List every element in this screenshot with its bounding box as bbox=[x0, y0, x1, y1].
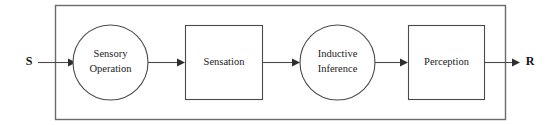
flow-diagram: Sensory Operation Sensation Inductive In… bbox=[0, 0, 557, 125]
connector-inductive-inference-to-perception bbox=[375, 59, 408, 67]
diagram-canvas: Sensory Operation Sensation Inductive In… bbox=[0, 0, 557, 125]
node-sensory-operation-line1: Sensory bbox=[94, 48, 129, 59]
stimulus-terminal-label: S bbox=[26, 54, 33, 68]
node-sensory-operation-line2: Operation bbox=[90, 63, 133, 74]
connector-stimulus-to-sensory-operation bbox=[38, 59, 76, 67]
node-inductive-inference-line2: Inference bbox=[318, 63, 358, 74]
connector-perception-to-response bbox=[485, 59, 521, 67]
connector-sensation-to-inductive-inference bbox=[263, 59, 301, 67]
node-perception-line1: Perception bbox=[424, 56, 470, 67]
node-sensation-line1: Sensation bbox=[204, 56, 246, 67]
connector-sensory-operation-to-sensation bbox=[148, 59, 185, 67]
node-inductive-inference-line1: Inductive bbox=[318, 48, 358, 59]
response-terminal-label: R bbox=[526, 54, 535, 68]
